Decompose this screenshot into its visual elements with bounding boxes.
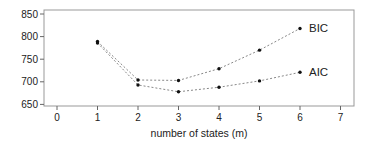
y-tick-label: 800 <box>21 31 38 42</box>
data-point <box>258 79 261 82</box>
x-tick-label: 7 <box>338 112 344 123</box>
x-tick-label: 1 <box>95 112 101 123</box>
x-tick-label: 3 <box>176 112 182 123</box>
x-tick-label: 6 <box>297 112 303 123</box>
x-tick-label: 0 <box>54 112 60 123</box>
x-tick-label: 2 <box>135 112 141 123</box>
chart-canvas: 650700750800850 01234567 BICAIC number o… <box>0 0 371 145</box>
x-tick-label: 4 <box>216 112 222 123</box>
y-tick-label: 650 <box>21 99 38 110</box>
data-point <box>217 86 220 89</box>
series-aic: AIC <box>96 41 328 93</box>
series-label-bic: BIC <box>309 22 328 34</box>
series-bic: BIC <box>96 22 328 82</box>
series-line <box>98 28 301 80</box>
y-tick-label: 750 <box>21 54 38 65</box>
plot-frame <box>44 10 354 106</box>
data-point <box>258 48 261 51</box>
x-axis: 01234567 <box>54 106 344 123</box>
x-axis-label: number of states (m) <box>151 127 248 139</box>
data-point <box>136 83 139 86</box>
data-point <box>136 78 139 81</box>
aic-bic-line-chart: 650700750800850 01234567 BICAIC number o… <box>0 0 371 145</box>
data-point <box>177 79 180 82</box>
x-tick-label: 5 <box>257 112 263 123</box>
y-tick-label: 850 <box>21 9 38 20</box>
data-point <box>298 27 301 30</box>
data-point <box>177 90 180 93</box>
plot-border <box>44 10 354 106</box>
series-label-aic: AIC <box>309 66 328 78</box>
data-point <box>298 71 301 74</box>
y-tick-label: 700 <box>21 76 38 87</box>
y-axis: 650700750800850 <box>21 9 44 110</box>
series-line <box>98 43 301 92</box>
series-layer: BICAIC <box>96 22 328 93</box>
data-point <box>217 67 220 70</box>
data-point <box>96 41 99 44</box>
